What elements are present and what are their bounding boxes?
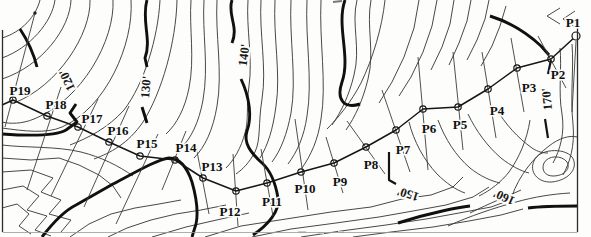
index-contour-line bbox=[142, 107, 147, 123]
station-label-P7: P7 bbox=[396, 142, 411, 157]
scan-smudge bbox=[333, 1, 342, 2]
contour-line bbox=[166, 0, 192, 134]
contour-line bbox=[70, 200, 181, 237]
contour-elevation-label: 170' bbox=[539, 87, 555, 110]
contour-line bbox=[431, 0, 454, 70]
section-line-P7 bbox=[382, 90, 410, 172]
contour-line bbox=[481, 6, 506, 66]
station-label-P17: P17 bbox=[82, 111, 103, 126]
station-label-P13: P13 bbox=[202, 159, 223, 174]
station-label-P3: P3 bbox=[522, 80, 537, 95]
contour-line bbox=[302, 0, 323, 168]
station-label-P6: P6 bbox=[422, 121, 437, 136]
station-label-P16: P16 bbox=[108, 123, 129, 138]
contour-line bbox=[438, 120, 500, 183]
station-label-P5: P5 bbox=[453, 117, 468, 132]
map-border bbox=[3, 28, 578, 233]
station-label-P2: P2 bbox=[551, 67, 565, 82]
station-label-P8: P8 bbox=[364, 157, 379, 172]
contour-line bbox=[2, 204, 31, 234]
index-contour-line bbox=[528, 206, 577, 208]
index-contour-line bbox=[42, 158, 197, 237]
contour-line bbox=[94, 0, 177, 159]
contour-line bbox=[260, 0, 278, 158]
contour-elevation-label: 160' bbox=[491, 186, 517, 208]
station-labels: P1P2P3P4P5P6P7P8P9P10P11P12P13P14P15P16P… bbox=[10, 15, 581, 219]
contour-line bbox=[399, 0, 437, 96]
station-marker-P1 bbox=[572, 32, 580, 40]
map-canvas: P1P2P3P4P5P6P7P8P9P10P11P12P13P14P15P16P… bbox=[0, 0, 591, 237]
section-line-end-dot bbox=[33, 11, 36, 14]
station-label-P1: P1 bbox=[566, 15, 580, 30]
section-line-P5 bbox=[453, 52, 463, 150]
contour-line bbox=[346, 0, 371, 130]
section-line-P4 bbox=[482, 52, 496, 138]
contour-line bbox=[194, 0, 219, 158]
section-line-P6 bbox=[418, 57, 428, 170]
contour-elevation-label: 150' bbox=[395, 184, 420, 204]
contour-line bbox=[180, 0, 205, 149]
station-label-P15: P15 bbox=[137, 136, 158, 151]
section-line-P10 bbox=[295, 119, 308, 210]
index-contour-line bbox=[231, 0, 235, 43]
station-label-P10: P10 bbox=[295, 181, 316, 196]
contour-elevation-label: 130' bbox=[138, 75, 154, 98]
contour-line bbox=[379, 0, 419, 103]
contour-line bbox=[468, 114, 529, 173]
contour-line bbox=[479, 120, 530, 196]
station-label-P14: P14 bbox=[176, 140, 197, 155]
contour-line bbox=[2, 0, 71, 79]
index-contour-line bbox=[490, 16, 549, 55]
contour-line bbox=[252, 187, 489, 237]
index-contour-line bbox=[145, 0, 147, 67]
contour-line bbox=[543, 157, 568, 176]
contour-map-svg: P1P2P3P4P5P6P7P8P9P10P11P12P13P14P15P16P… bbox=[0, 0, 591, 237]
section-line-P3 bbox=[511, 38, 524, 112]
station-label-P19: P19 bbox=[10, 83, 31, 98]
contour-line bbox=[2, 170, 71, 232]
station-label-P12: P12 bbox=[220, 204, 241, 219]
contour-line bbox=[547, 8, 560, 24]
station-label-P18: P18 bbox=[46, 97, 67, 112]
contour-line bbox=[301, 199, 513, 237]
index-contour-line bbox=[389, 152, 396, 184]
contour-elevation-label: 140' bbox=[236, 43, 253, 67]
contour-line bbox=[409, 122, 465, 193]
index-contour-line bbox=[545, 119, 548, 138]
index-contour-line bbox=[398, 206, 470, 223]
contour-line bbox=[467, 0, 489, 60]
station-label-P9: P9 bbox=[333, 174, 348, 189]
station-label-P11: P11 bbox=[262, 194, 282, 209]
station-label-P4: P4 bbox=[490, 103, 505, 118]
